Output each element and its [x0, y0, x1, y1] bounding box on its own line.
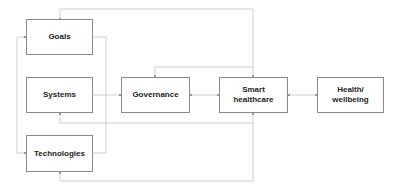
- systems-feedback-line: [60, 113, 253, 123]
- node-smart-healthcare: Smart healthcare: [219, 77, 288, 113]
- left-trunk-line: [17, 37, 26, 153]
- arrow-smart-bottom: [252, 113, 254, 115]
- node-governance: Governance: [121, 77, 190, 113]
- node-goals: Goals: [26, 19, 93, 55]
- node-technologies: Technologies: [26, 135, 93, 172]
- node-health-wellbeing-label: Health/ wellbeing: [329, 85, 373, 105]
- arrow-tech-bottom: [59, 172, 61, 174]
- arrow-governance-right: [190, 94, 192, 96]
- node-health-wellbeing: Health/ wellbeing: [317, 77, 384, 113]
- node-smart-healthcare-label: Smart healthcare: [229, 85, 279, 105]
- node-systems: Systems: [26, 77, 93, 113]
- arrow-smart-right: [288, 94, 290, 96]
- arrow-systems-bottom: [59, 113, 61, 115]
- governance-feedback-line: [155, 67, 253, 77]
